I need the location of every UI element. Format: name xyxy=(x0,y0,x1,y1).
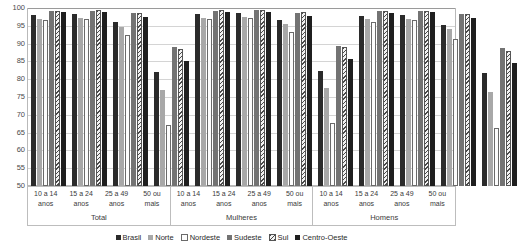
legend-item-centro-oeste[interactable]: Centro-Oeste xyxy=(295,233,347,242)
bar-group xyxy=(151,8,192,186)
bar-sudeste xyxy=(213,11,218,187)
bar-norte xyxy=(242,17,247,186)
bar-group xyxy=(69,8,110,186)
bar-centro-oeste xyxy=(512,63,517,186)
category-axis: 10 a 14anos15 a 24anos25 a 49anos50 ouma… xyxy=(27,186,456,226)
bar-nordeste xyxy=(330,123,335,186)
legend-swatch-icon xyxy=(148,235,153,240)
bar-group xyxy=(315,8,356,186)
bar-nordeste xyxy=(43,20,48,186)
bar-nordeste xyxy=(453,39,458,186)
bar-sul xyxy=(219,10,224,186)
bar-sul xyxy=(465,14,470,186)
bar-sudeste xyxy=(131,13,136,186)
bar-group xyxy=(479,8,520,186)
bar-sudeste xyxy=(336,46,341,186)
bar-brasil xyxy=(154,72,159,186)
bar-centro-oeste xyxy=(266,12,271,186)
bar-nordeste xyxy=(166,125,171,186)
legend-item-nordeste[interactable]: Nordeste xyxy=(181,233,220,242)
category-label: 15 a 24anos xyxy=(349,187,384,209)
bar-brasil xyxy=(195,14,200,186)
legend-label: Norte xyxy=(155,233,173,242)
bar-centro-oeste xyxy=(348,59,353,186)
bar-nordeste xyxy=(207,19,212,186)
bar-brasil xyxy=(113,22,118,186)
category-label: 10 a 14anos xyxy=(28,187,63,209)
bar-group xyxy=(28,8,69,186)
legend-label: Centro-Oeste xyxy=(302,233,347,242)
bar-centro-oeste xyxy=(184,61,189,186)
legend-label: Nordeste xyxy=(190,233,220,242)
bar-centro-oeste xyxy=(61,12,66,186)
legend-swatch-icon xyxy=(227,235,232,240)
category-label: 25 a 49anos xyxy=(384,187,419,209)
bar-norte xyxy=(78,18,83,186)
bar-sudeste xyxy=(377,11,382,186)
bar-sul xyxy=(424,11,429,187)
section-homens xyxy=(356,8,520,186)
bar-sul xyxy=(260,10,265,186)
legend-item-sul[interactable]: Sul xyxy=(269,233,289,242)
legend-swatch-icon xyxy=(181,234,188,241)
section-label: Mulheres xyxy=(171,209,313,225)
bar-sul xyxy=(301,12,306,186)
bar-sul xyxy=(55,11,60,187)
bar-sudeste xyxy=(172,47,177,186)
bar-group xyxy=(233,8,274,186)
y-axis-tick-85: 85 xyxy=(1,57,25,65)
bar-norte xyxy=(160,90,165,186)
bar-sudeste xyxy=(254,10,259,186)
bar-sul xyxy=(137,13,142,186)
y-axis-tick-80: 80 xyxy=(1,75,25,83)
legend-swatch-icon xyxy=(116,235,121,240)
y-axis-tick-65: 65 xyxy=(1,129,25,137)
legend-item-norte[interactable]: Norte xyxy=(148,233,173,242)
bar-group xyxy=(110,8,151,186)
cat-section-mulheres: 10 a 14anos15 a 24anos25 a 49anos50 ouma… xyxy=(171,187,314,225)
bar-brasil xyxy=(31,15,36,186)
bar-sudeste xyxy=(90,11,95,187)
y-axis-tick-100: 100 xyxy=(1,4,25,12)
bar-norte xyxy=(119,27,124,186)
bar-nordeste xyxy=(494,128,499,186)
bar-nordeste xyxy=(125,35,130,186)
bar-centro-oeste xyxy=(102,12,107,186)
legend-label: Brasil xyxy=(123,233,142,242)
bar-centro-oeste xyxy=(225,12,230,186)
cat-section-homens: 10 a 14anos15 a 24anos25 a 49anos50 ouma… xyxy=(313,187,455,225)
bar-norte xyxy=(365,19,370,186)
y-axis-tick-70: 70 xyxy=(1,111,25,119)
chart-legend: BrasilNorteNordesteSudesteSulCentro-Oest… xyxy=(0,230,463,244)
section-label: Total xyxy=(28,209,170,225)
category-label: 10 a 14anos xyxy=(171,187,206,209)
bar-sudeste xyxy=(295,13,300,186)
bar-sul xyxy=(383,11,388,186)
bar-norte xyxy=(324,88,329,186)
category-label: 50 oumais xyxy=(420,187,455,209)
bar-brasil xyxy=(236,13,241,186)
bar-group xyxy=(192,8,233,186)
bar-norte xyxy=(201,18,206,186)
bar-nordeste xyxy=(84,19,89,186)
bar-brasil xyxy=(482,73,487,186)
category-label: 25 a 49anos xyxy=(242,187,277,209)
bar-group xyxy=(438,8,479,186)
legend-item-sudeste[interactable]: Sudeste xyxy=(227,233,262,242)
bar-group xyxy=(397,8,438,186)
legend-item-brasil[interactable]: Brasil xyxy=(116,233,142,242)
y-axis-tick-50: 50 xyxy=(1,182,25,190)
section-total xyxy=(28,8,192,186)
category-label: 50 oumais xyxy=(277,187,312,209)
bar-brasil xyxy=(318,71,323,186)
legend-label: Sudeste xyxy=(234,233,262,242)
legend-swatch-icon xyxy=(269,234,276,241)
bar-nordeste xyxy=(248,18,253,186)
bar-brasil xyxy=(277,20,282,186)
bar-sudeste xyxy=(500,48,505,186)
category-label: 15 a 24anos xyxy=(206,187,241,209)
cat-section-total: 10 a 14anos15 a 24anos25 a 49anos50 ouma… xyxy=(28,187,171,225)
bar-norte xyxy=(283,24,288,186)
bar-sul xyxy=(96,10,101,186)
bar-nordeste xyxy=(289,32,294,187)
